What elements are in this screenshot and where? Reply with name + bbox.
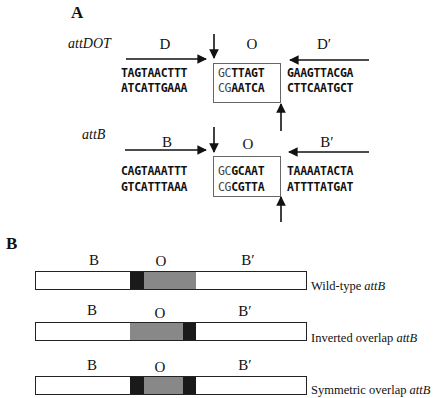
construct-2-bar xyxy=(35,322,307,341)
panel-b-label: B xyxy=(6,234,17,254)
core-gray-segment xyxy=(144,377,183,394)
overlap-dark-segment xyxy=(130,272,144,289)
construct-3-bar xyxy=(35,376,307,395)
construct-2-bprime-label: B′ xyxy=(233,303,257,320)
construct-2-b-label: B xyxy=(80,302,104,319)
construct-1-b-label: B xyxy=(82,252,106,269)
construct-3-o-label: O xyxy=(148,359,172,376)
construct-1-bprime-label: B′ xyxy=(236,252,260,269)
overlap-dark-segment xyxy=(183,323,196,340)
construct-3-bprime-label: B′ xyxy=(233,357,257,374)
construct-2-caption: Inverted overlap attB xyxy=(311,331,417,346)
overlap-dark-segment-left xyxy=(130,377,144,394)
construct-1-bar xyxy=(35,271,307,290)
construct-1-o-label: O xyxy=(149,253,173,270)
construct-2-o-label: O xyxy=(148,305,172,322)
construct-3-b-label: B xyxy=(80,357,104,374)
core-gray-segment xyxy=(130,323,183,340)
core-gray-segment xyxy=(144,272,196,289)
construct-3-caption: Symmetric overlap attB xyxy=(311,383,430,398)
construct-1-caption: Wild-type attB xyxy=(311,279,385,294)
overlap-dark-segment-right xyxy=(183,377,196,394)
